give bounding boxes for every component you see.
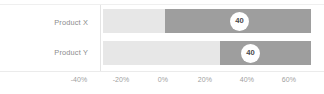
bar-segment-highlight bbox=[220, 41, 311, 65]
value-bubble: 40 bbox=[241, 44, 260, 63]
axis-tick-label: -20% bbox=[101, 76, 141, 83]
bar-segment-base bbox=[103, 9, 165, 33]
axis-tick-label: 0% bbox=[143, 76, 183, 83]
axis-tick-label: 40% bbox=[227, 76, 267, 83]
value-axis-line bbox=[0, 71, 324, 72]
axis-tick-label: -40% bbox=[59, 76, 99, 83]
plot-area: 40 40 bbox=[0, 0, 324, 71]
bar-segment-base bbox=[103, 41, 220, 65]
bar-chart: Product X Product Y 40 40 -40%-20%0%20%4… bbox=[0, 0, 324, 94]
axis-tick-label: 20% bbox=[185, 76, 225, 83]
axis-tick-label: 60% bbox=[269, 76, 309, 83]
value-bubble: 40 bbox=[230, 12, 249, 31]
